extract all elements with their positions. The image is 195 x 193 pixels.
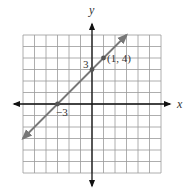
coordinate-plane: y x 3 −3 (1, 4) bbox=[0, 0, 195, 193]
point-label: (1, 4) bbox=[107, 52, 131, 65]
line-y-equals-x-plus-3 bbox=[23, 35, 127, 139]
x-intercept-label: −3 bbox=[56, 106, 68, 118]
y-axis-label: y bbox=[88, 3, 95, 17]
x-axis-label: x bbox=[176, 97, 183, 111]
data-point bbox=[101, 56, 106, 61]
data-point bbox=[90, 67, 95, 72]
y-intercept-label: 3 bbox=[83, 58, 89, 70]
